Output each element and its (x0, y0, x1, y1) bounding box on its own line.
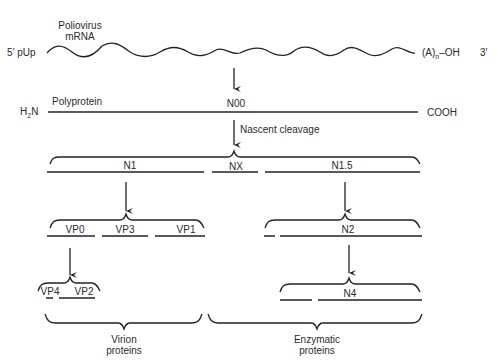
vp2-label: VP2 (75, 286, 94, 297)
c-terminus-label: COOH (427, 107, 457, 118)
poly-a-text: (A) (422, 47, 435, 58)
vp1-label: VP1 (177, 224, 196, 235)
enzymatic-label-line2: proteins (299, 345, 335, 356)
three-prime-end-label: 3′ (480, 47, 487, 58)
mrna-strand (47, 43, 415, 57)
n-terminus-n: N (31, 106, 38, 117)
vp4-label: VP4 (41, 286, 60, 297)
cleavage-label: Nascent cleavage (240, 124, 320, 135)
mrna-title-line2: mRNA (65, 31, 94, 42)
poly-a-tail-label: (A)n–OH (422, 47, 460, 58)
polyprotein-label: Polyprotein (52, 96, 102, 107)
n1-label: N1 (124, 160, 137, 171)
enzymatic-label-line1: Enzymatic (294, 334, 340, 345)
poly-a-suffix: –OH (439, 47, 460, 58)
n15-label: N1.5 (331, 160, 352, 171)
five-prime-end-label: 5′ pUp (7, 47, 36, 58)
vp0-label: VP0 (66, 224, 85, 235)
virion-label-line1: Virion (111, 334, 136, 345)
n4-label: N4 (344, 288, 357, 299)
vp3-label: VP3 (116, 224, 135, 235)
polyprotein-name-label: N00 (227, 98, 245, 109)
enzymatic-brace (208, 314, 422, 329)
nx-label: NX (229, 161, 243, 172)
n2-label: N2 (342, 224, 355, 235)
virion-brace (45, 314, 202, 329)
virion-label-line2: proteins (106, 345, 142, 356)
n-terminus-label: H2N (20, 106, 38, 117)
mrna-title-line1: Poliovirus (58, 20, 101, 31)
